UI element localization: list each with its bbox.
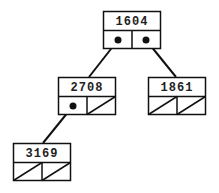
binary-tree-diagram: 1604 2708 1861 3169	[0, 0, 219, 193]
node-value: 1604	[116, 15, 149, 29]
tree-node-1861: 1861	[149, 78, 206, 115]
tree-node-2708: 2708	[59, 78, 116, 115]
tree-node-3169: 3169	[14, 144, 71, 181]
left-pointer-dot-icon	[70, 103, 77, 110]
right-pointer-dot-icon	[143, 37, 150, 44]
node-value: 2708	[71, 81, 104, 95]
left-pointer-dot-icon	[115, 37, 122, 44]
tree-node-1604: 1604	[104, 12, 161, 49]
node-value: 3169	[26, 147, 59, 161]
node-value: 1861	[161, 81, 194, 95]
